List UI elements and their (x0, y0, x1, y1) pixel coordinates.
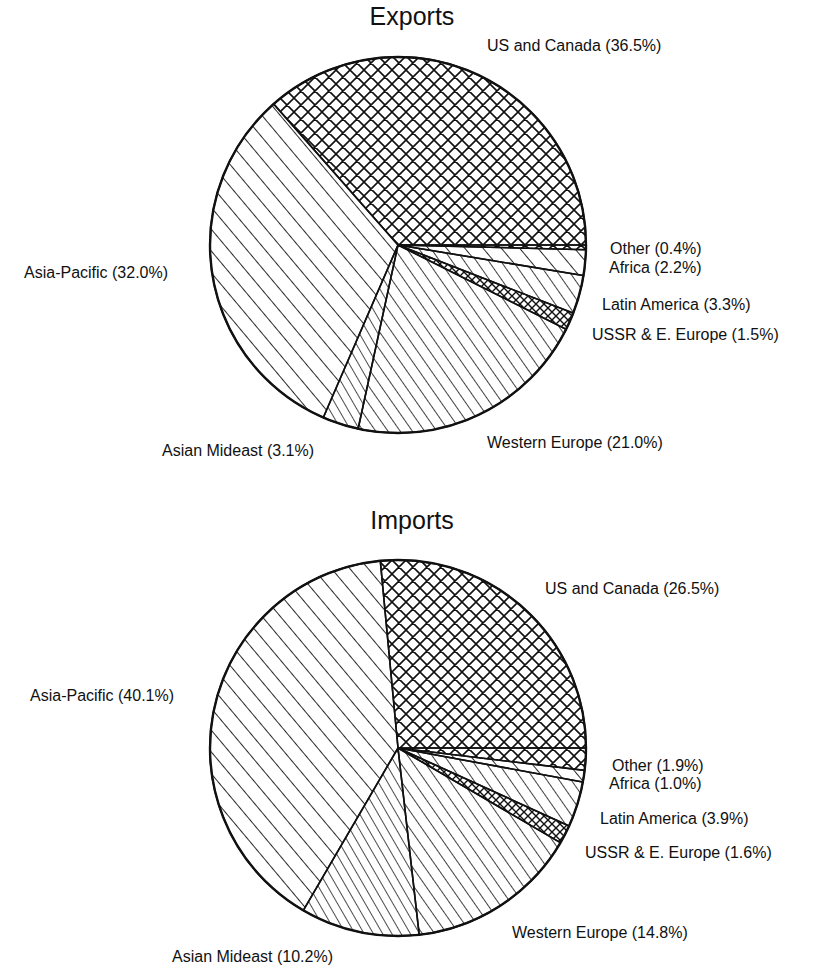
exports-label-asia-pacific: Asia-Pacific (32.0%) (24, 265, 168, 281)
imports-pie (210, 560, 586, 936)
imports-label-asia-pacific: Asia-Pacific (40.1%) (30, 688, 174, 704)
imports-label-ussr: USSR & E. Europe (1.6%) (585, 845, 772, 861)
chart-root: Exports US and Canada (36.5%) Other (0.4… (0, 0, 829, 979)
exports-label-asian-mideast: Asian Mideast (3.1%) (162, 443, 314, 459)
pies-svg (0, 0, 829, 979)
imports-label-western-europe: Western Europe (14.8%) (512, 925, 688, 941)
imports-title: Imports (370, 506, 453, 535)
imports-label-africa: Africa (1.0%) (609, 776, 701, 792)
imports-label-asian-mideast: Asian Mideast (10.2%) (172, 949, 333, 965)
exports-label-other: Other (0.4%) (610, 241, 702, 257)
imports-label-other: Other (1.9%) (612, 758, 704, 774)
exports-label-africa: Africa (2.2%) (609, 260, 701, 276)
imports-label-us-canada: US and Canada (26.5%) (545, 581, 719, 597)
exports-label-latin-america: Latin America (3.3%) (602, 297, 751, 313)
exports-label-ussr: USSR & E. Europe (1.5%) (592, 327, 779, 343)
exports-title: Exports (370, 2, 455, 31)
imports-label-latin-america: Latin America (3.9%) (600, 811, 749, 827)
exports-pie (210, 57, 586, 433)
exports-label-western-europe: Western Europe (21.0%) (487, 435, 663, 451)
exports-label-us-canada: US and Canada (36.5%) (487, 38, 661, 54)
